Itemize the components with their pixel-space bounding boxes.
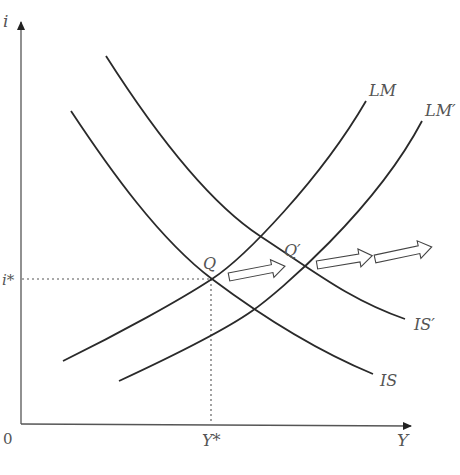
is-lm-chart: i Y 0 i* Y* Q Q′ LM LM′ IS IS′ bbox=[0, 0, 460, 475]
is-prime-label: IS′ bbox=[413, 315, 435, 334]
shift-arrow-2 bbox=[316, 247, 374, 274]
y-axis-label: i bbox=[3, 11, 8, 31]
lm-curve bbox=[63, 101, 366, 361]
q-prime-label: Q′ bbox=[284, 241, 301, 260]
x-axis bbox=[21, 424, 411, 426]
y-star-label: Y* bbox=[202, 431, 221, 450]
q-label: Q bbox=[203, 254, 216, 273]
i-star-label: i* bbox=[2, 271, 15, 289]
shift-arrow-1 bbox=[227, 257, 286, 286]
is-prime-curve bbox=[106, 56, 405, 319]
shift-arrow-3 bbox=[373, 238, 433, 268]
lm-prime-curve bbox=[119, 121, 422, 381]
x-axis-label: Y bbox=[397, 430, 410, 450]
is-label: IS bbox=[379, 371, 397, 390]
origin-label: 0 bbox=[3, 430, 13, 448]
lm-label: LM bbox=[368, 81, 397, 100]
lm-prime-label: LM′ bbox=[424, 101, 456, 120]
